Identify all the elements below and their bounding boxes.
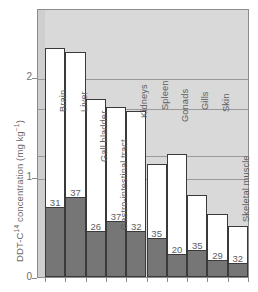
bar-shaded-skeletal-muscle [228, 263, 248, 277]
bar-slot: 35 [147, 10, 167, 277]
y-axis-tick-labels: 012 [14, 0, 32, 292]
bar-slot: 35 [187, 10, 207, 277]
bar-value-label: 35 [147, 228, 167, 239]
bar-slot: 20 [167, 10, 187, 277]
y-axis-tick-label: 2 [18, 71, 32, 82]
bar-value-label: 32 [126, 221, 146, 232]
bar-shaded-liver [65, 197, 85, 277]
bar-slot: 37 [106, 10, 126, 277]
bar-shaded-gills [187, 250, 207, 277]
bar-value-label: 32 [228, 253, 248, 264]
x-axis-tick-mark [187, 278, 188, 282]
bar-value-label: 37 [106, 211, 126, 222]
x-axis-tick-mark [167, 278, 168, 282]
x-axis-tick-mark [147, 278, 148, 282]
bar-value-label: 29 [207, 250, 227, 261]
bar-slot: 32 [228, 10, 248, 277]
bar-value-label: 26 [86, 221, 106, 232]
bar-slot: 32 [126, 10, 146, 277]
bar-shaded-spleen [147, 238, 167, 277]
bar-shaded-skin [207, 260, 227, 277]
y-axis-tick-label: 1 [18, 171, 32, 182]
bar-value-label: 37 [65, 187, 85, 198]
bar-shaded-brain [45, 207, 65, 277]
bar-slot: 29 [207, 10, 227, 277]
bar-value-label: 31 [45, 197, 65, 208]
x-axis-tick-mark [106, 278, 107, 282]
bar-group: 31372637323520352932 [45, 10, 248, 277]
bar-shaded-gonads [167, 254, 187, 277]
bar-shaded-kidneys [126, 231, 146, 277]
x-axis-tick-mark [126, 278, 127, 282]
bar-value-label: 20 [167, 244, 187, 255]
bar-shaded-gastro-intestinal-tract [106, 221, 126, 277]
bar-shaded-gall-bladder [86, 231, 106, 277]
bar-value-label: 35 [187, 240, 207, 251]
x-axis-tick-mark [228, 278, 229, 282]
bar-slot: 37 [65, 10, 85, 277]
plot-area: 31372637323520352932 [37, 9, 249, 278]
x-axis-tick-mark [248, 278, 249, 282]
chart-figure: DDT-C14 concentration (mg kg−1) 012 3137… [0, 0, 258, 292]
x-axis-tick-mark [207, 278, 208, 282]
bar-slot: 26 [86, 10, 106, 277]
plot-left-gutter [38, 10, 45, 277]
x-axis-tick-mark [86, 278, 87, 282]
x-axis-tick-mark [65, 278, 66, 282]
y-axis-tick-label: 0 [18, 271, 32, 282]
bar-slot: 31 [45, 10, 65, 277]
x-axis-tick-mark [45, 278, 46, 282]
x-axis-tick-marks [37, 278, 249, 284]
